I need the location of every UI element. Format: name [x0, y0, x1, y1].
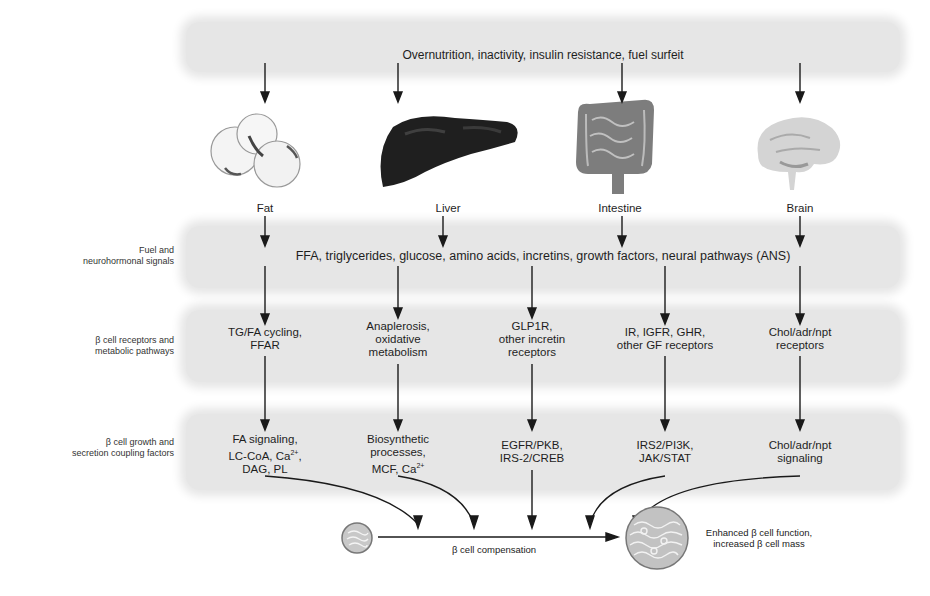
- connector-arrows: [0, 0, 930, 596]
- small-beta-cell-icon: [340, 521, 374, 555]
- outcome-label: Enhanced β cell function, increased β ce…: [694, 527, 824, 549]
- large-beta-cell-icon: [624, 505, 690, 571]
- compensation-label: β cell compensation: [452, 544, 536, 555]
